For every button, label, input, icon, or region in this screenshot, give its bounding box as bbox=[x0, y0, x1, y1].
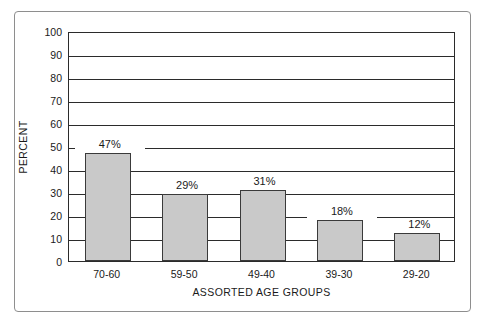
y-axis-tick-label: 0 bbox=[28, 257, 62, 268]
gridline bbox=[69, 56, 454, 57]
bar bbox=[240, 190, 286, 261]
y-axis-tick-label: 30 bbox=[28, 188, 62, 199]
bar-chart: PERCENT 1009080706050403020100 ASSORTED … bbox=[0, 0, 484, 332]
x-axis-category-label: 49-40 bbox=[223, 268, 300, 280]
bar bbox=[394, 233, 440, 261]
y-axis-tick-labels: 1009080706050403020100 bbox=[24, 32, 62, 262]
bar-value-label: 31% bbox=[230, 175, 300, 188]
bar bbox=[317, 220, 363, 261]
y-axis-tick-label: 20 bbox=[28, 211, 62, 222]
bar bbox=[162, 194, 208, 261]
x-axis-category-label: 70-60 bbox=[68, 268, 145, 280]
x-axis-category-label: 29-20 bbox=[378, 268, 455, 280]
gridline bbox=[69, 125, 454, 126]
x-axis-category-label: 39-30 bbox=[300, 268, 377, 280]
x-axis-title: ASSORTED AGE GROUPS bbox=[68, 286, 455, 298]
y-axis-tick-label: 10 bbox=[28, 234, 62, 245]
y-axis-tick-label: 90 bbox=[28, 50, 62, 61]
bar bbox=[85, 153, 131, 261]
bar-value-label: 12% bbox=[384, 218, 454, 231]
x-axis-category-label: 59-50 bbox=[145, 268, 222, 280]
bar-value-label: 47% bbox=[75, 138, 145, 151]
y-axis-tick-label: 100 bbox=[28, 27, 62, 38]
gridline bbox=[69, 79, 454, 80]
y-axis-tick-label: 70 bbox=[28, 96, 62, 107]
y-axis-tick-label: 40 bbox=[28, 165, 62, 176]
y-axis-tick-label: 50 bbox=[28, 142, 62, 153]
bar-value-label: 18% bbox=[307, 205, 377, 218]
y-axis-tick-label: 80 bbox=[28, 73, 62, 84]
gridline bbox=[69, 102, 454, 103]
bar-value-label: 29% bbox=[152, 179, 222, 192]
clipped-caption bbox=[14, 322, 471, 332]
y-axis-tick-label: 60 bbox=[28, 119, 62, 130]
